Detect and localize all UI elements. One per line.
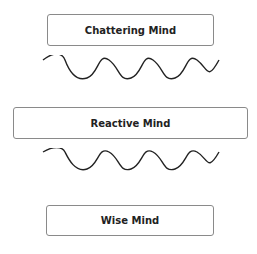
- wise-mind-label: Wise Mind: [101, 215, 159, 226]
- reactive-mind-box: Reactive Mind: [13, 107, 248, 139]
- reactive-mind-label: Reactive Mind: [91, 118, 171, 129]
- chattering-mind-box: Chattering Mind: [47, 14, 214, 46]
- wave-connector-2: [42, 148, 220, 174]
- wise-mind-box: Wise Mind: [46, 205, 214, 236]
- wave-connector-1: [42, 55, 220, 83]
- chattering-mind-label: Chattering Mind: [85, 25, 176, 36]
